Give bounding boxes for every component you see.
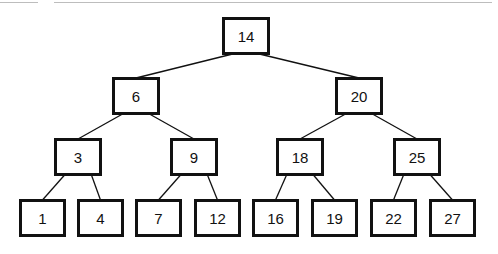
tree-node-25: 25	[393, 138, 441, 176]
edge-6-3	[78, 114, 123, 139]
edge-14-20	[259, 54, 359, 78]
edge-20-18	[300, 114, 346, 139]
tree-node-1: 1	[19, 199, 66, 237]
tree-node-16: 16	[252, 199, 299, 237]
tree-node-14: 14	[222, 17, 270, 55]
tree-node-7: 7	[135, 199, 182, 237]
edge-14-6	[136, 54, 233, 78]
edge-6-9	[149, 114, 194, 139]
tree-node-9: 9	[170, 138, 218, 176]
edge-25-27	[430, 175, 452, 200]
tree-node-4: 4	[77, 199, 124, 237]
edge-18-16	[276, 175, 287, 200]
edge-3-1	[43, 175, 65, 200]
edge-25-22	[394, 175, 404, 200]
edge-18-19	[313, 175, 334, 200]
edge-9-7	[159, 175, 181, 200]
edge-9-12	[207, 175, 217, 200]
tree-node-6: 6	[112, 77, 160, 115]
tree-node-18: 18	[276, 138, 324, 176]
tree-node-3: 3	[54, 138, 102, 176]
tree-node-22: 22	[370, 199, 417, 237]
tree-node-27: 27	[429, 199, 476, 237]
tree-node-19: 19	[311, 199, 358, 237]
edge-3-4	[91, 175, 100, 200]
tree-node-12: 12	[194, 199, 241, 237]
tree-node-20: 20	[335, 77, 383, 115]
edge-20-25	[372, 114, 417, 139]
